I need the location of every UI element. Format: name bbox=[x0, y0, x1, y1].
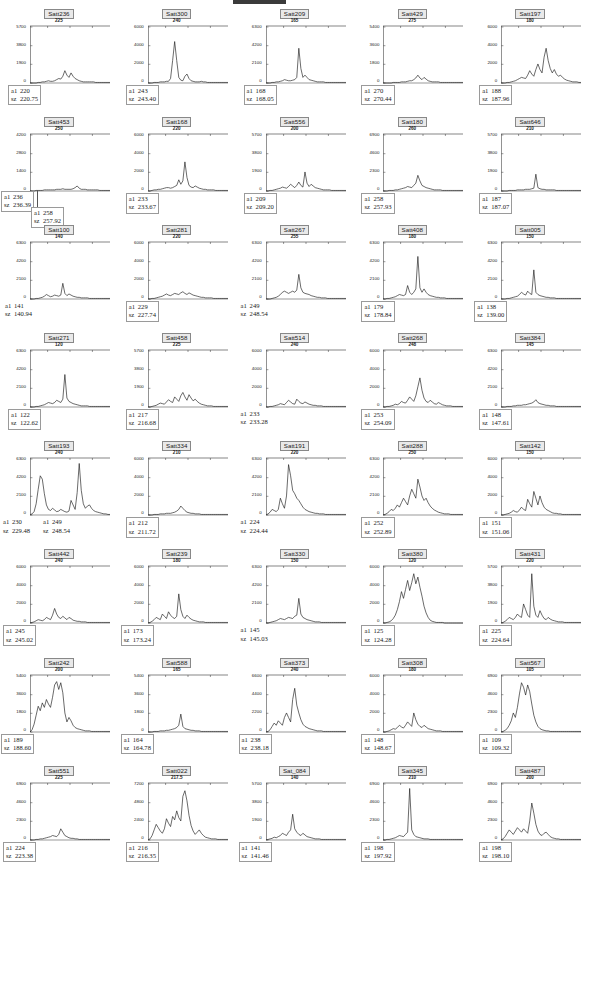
allele-callout[interactable]: a1173sz173.24 bbox=[121, 625, 154, 645]
marker-panel[interactable]: Satt1971806000400020000a1188sz187.96 bbox=[471, 9, 589, 117]
trace-plot[interactable] bbox=[30, 782, 110, 840]
trace-plot[interactable] bbox=[501, 782, 581, 840]
trace-plot[interactable] bbox=[266, 782, 346, 840]
trace-plot[interactable] bbox=[148, 349, 228, 407]
allele-callout[interactable]: a1125sz124.28 bbox=[361, 625, 394, 645]
allele-callout[interactable]: a1138sz139.00 bbox=[474, 301, 507, 321]
marker-panel[interactable]: Satt2362255700380019000a1220sz220.75 bbox=[0, 9, 118, 117]
trace-plot[interactable] bbox=[383, 565, 463, 623]
marker-panel[interactable]: Satt3801206000400020000a1125sz124.28 bbox=[353, 549, 471, 657]
allele-callout[interactable]: a1236sz236.39 bbox=[1, 191, 34, 211]
allele-callout[interactable]: a1148sz147.61 bbox=[479, 409, 512, 429]
trace-plot[interactable] bbox=[30, 349, 110, 407]
allele-callout[interactable]: a1253sz254.09 bbox=[361, 409, 394, 429]
marker-panel[interactable]: Satt3841456300420021000a1148sz147.61 bbox=[471, 333, 589, 441]
marker-panel[interactable]: Satt0051506300420021000a1138sz139.00 bbox=[471, 225, 589, 333]
trace-plot[interactable] bbox=[266, 241, 346, 299]
allele-callout[interactable]: a1217sz216.68 bbox=[126, 409, 159, 429]
allele-callout[interactable]: a1188sz187.96 bbox=[479, 85, 512, 105]
marker-panel[interactable]: Satt4872006900460023000a1198sz198.10 bbox=[471, 766, 589, 874]
marker-panel[interactable]: Satt2882506300420021000a1252sz252.89 bbox=[353, 441, 471, 549]
trace-plot[interactable] bbox=[501, 457, 581, 515]
marker-panel[interactable]: Satt5142406000400020000a1233sz233.28 bbox=[236, 333, 354, 441]
allele-callout[interactable]: a1224sz224.44 bbox=[239, 517, 270, 535]
trace-plot[interactable] bbox=[501, 25, 581, 83]
allele-callout[interactable]: a1212sz211.72 bbox=[126, 517, 159, 537]
marker-panel[interactable]: Satt4312205700380019000a1225sz224.64 bbox=[471, 549, 589, 657]
trace-plot[interactable] bbox=[501, 133, 581, 191]
allele-callout[interactable]: a1122sz122.62 bbox=[8, 409, 41, 429]
allele-callout[interactable]: a1229sz227.74 bbox=[126, 301, 159, 321]
marker-panel[interactable]: Satt5671056900460023000a1109sz109.32 bbox=[471, 658, 589, 766]
allele-callout[interactable]: a1249sz248.54 bbox=[239, 301, 270, 319]
trace-plot[interactable] bbox=[383, 349, 463, 407]
trace-plot[interactable] bbox=[148, 241, 228, 299]
marker-panel[interactable]: Satt2682486000400020000a1253sz254.09 bbox=[353, 333, 471, 441]
marker-panel[interactable]: Satt2711206300420021000a1122sz122.62 bbox=[0, 333, 118, 441]
marker-panel[interactable]: Satt3081806000400020000a1148sz148.67 bbox=[353, 658, 471, 766]
allele-callout[interactable]: a1220sz220.75 bbox=[8, 85, 41, 105]
marker-panel[interactable]: Satt1802606900460023000a1258sz257.93 bbox=[353, 117, 471, 225]
allele-callout[interactable]: a1225sz224.64 bbox=[479, 625, 512, 645]
marker-panel[interactable]: Satt4081806300420021000a1179sz178.84 bbox=[353, 225, 471, 333]
trace-plot[interactable] bbox=[383, 25, 463, 83]
allele-callout[interactable]: a1224sz223.38 bbox=[3, 842, 36, 862]
trace-plot[interactable] bbox=[383, 133, 463, 191]
trace-plot[interactable] bbox=[383, 674, 463, 732]
marker-panel[interactable]: Satt2672556300420021000a1249sz248.54 bbox=[236, 225, 354, 333]
trace-plot[interactable] bbox=[266, 565, 346, 623]
marker-panel[interactable]: Satt5512256900460023000a1224sz223.38 bbox=[0, 766, 118, 874]
allele-callout[interactable]: a1252sz252.89 bbox=[361, 517, 394, 537]
trace-plot[interactable] bbox=[148, 25, 228, 83]
allele-callout[interactable]: a1216sz216.35 bbox=[126, 842, 159, 862]
trace-plot[interactable] bbox=[383, 457, 463, 515]
allele-callout[interactable]: a1187sz187.07 bbox=[479, 193, 512, 213]
allele-callout[interactable]: a1189sz188.60 bbox=[1, 734, 34, 754]
trace-plot[interactable] bbox=[501, 565, 581, 623]
allele-callout[interactable]: a1238sz238.18 bbox=[239, 734, 272, 754]
trace-plot[interactable] bbox=[148, 457, 228, 515]
trace-plot[interactable] bbox=[30, 457, 110, 515]
marker-panel[interactable]: Satt1932406300420021000a1230sz229.48a124… bbox=[0, 441, 118, 549]
allele-callout[interactable]: a1270sz270.44 bbox=[361, 85, 394, 105]
trace-plot[interactable] bbox=[266, 349, 346, 407]
trace-plot[interactable] bbox=[501, 349, 581, 407]
trace-plot[interactable] bbox=[148, 674, 228, 732]
marker-panel[interactable]: Satt2091656300420021000a1168sz168.05 bbox=[236, 9, 354, 117]
trace-plot[interactable] bbox=[266, 674, 346, 732]
trace-plot[interactable] bbox=[266, 25, 346, 83]
marker-panel[interactable]: Satt6462105700380019000a1187sz187.07 bbox=[471, 117, 589, 225]
marker-panel[interactable]: Satt1682206000400020000a1233sz233.67 bbox=[118, 117, 236, 225]
marker-panel[interactable]: Satt4292755400360018000a1270sz270.44 bbox=[353, 9, 471, 117]
allele-callout[interactable]: a1245sz245.02 bbox=[3, 625, 36, 645]
trace-plot[interactable] bbox=[30, 133, 110, 191]
marker-panel[interactable]: Satt1912206300420021000a1224sz224.44 bbox=[236, 441, 354, 549]
trace-plot[interactable] bbox=[30, 25, 110, 83]
allele-callout[interactable]: a1230sz229.48 bbox=[1, 517, 32, 535]
marker-panel[interactable]: Satt5881655400360018000a1164sz164.78 bbox=[118, 658, 236, 766]
allele-callout[interactable]: a1198sz197.92 bbox=[361, 842, 394, 862]
marker-panel[interactable]: Sat_0841405700380019000a1141sz141.46 bbox=[236, 766, 354, 874]
marker-panel[interactable]: Satt3301506300420021000a1145sz145.03 bbox=[236, 549, 354, 657]
allele-callout[interactable]: a1145sz145.03 bbox=[239, 625, 270, 643]
trace-plot[interactable] bbox=[501, 241, 581, 299]
allele-callout[interactable]: a1209sz209.20 bbox=[244, 193, 277, 213]
marker-panel[interactable]: Satt4532504200280014000a1236sz236.39a125… bbox=[0, 117, 118, 225]
allele-callout[interactable]: a1179sz178.84 bbox=[361, 301, 394, 321]
marker-panel[interactable]: Satt3452106900460023000a1198sz197.92 bbox=[353, 766, 471, 874]
allele-callout[interactable]: a1233sz233.28 bbox=[239, 409, 270, 427]
allele-callout[interactable]: a1249sz248.54 bbox=[41, 517, 72, 535]
allele-callout[interactable]: a1141sz140.94 bbox=[3, 301, 34, 319]
marker-panel[interactable]: Satt4582255700380019000a1217sz216.68 bbox=[118, 333, 236, 441]
allele-callout[interactable]: a1141sz141.46 bbox=[239, 842, 272, 862]
allele-callout[interactable]: a1164sz164.78 bbox=[121, 734, 154, 754]
marker-panel[interactable]: Satt2391806000400020000a1173sz173.24 bbox=[118, 549, 236, 657]
trace-plot[interactable] bbox=[266, 457, 346, 515]
trace-plot[interactable] bbox=[30, 674, 110, 732]
allele-callout[interactable]: a1243sz243.40 bbox=[126, 85, 159, 105]
marker-panel[interactable]: Satt3732406600440022000a1238sz238.18 bbox=[236, 658, 354, 766]
allele-callout[interactable]: a1168sz168.05 bbox=[244, 85, 277, 105]
allele-callout[interactable]: a1109sz109.32 bbox=[479, 734, 512, 754]
allele-callout[interactable]: a1258sz257.93 bbox=[361, 193, 394, 213]
trace-plot[interactable] bbox=[148, 133, 228, 191]
